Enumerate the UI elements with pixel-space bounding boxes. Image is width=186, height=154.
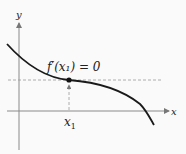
critical-point bbox=[66, 77, 71, 82]
x1-label: x1 bbox=[64, 115, 76, 131]
tangent-diagram: y x f′(x₁) = 0 x1 bbox=[0, 0, 186, 154]
derivative-annotation: f′(x₁) = 0 bbox=[46, 60, 101, 74]
y-axis-label: y bbox=[15, 9, 22, 20]
x-axis-label: x bbox=[171, 106, 177, 117]
function-curve bbox=[7, 44, 154, 125]
x1-label-subscript: 1 bbox=[71, 122, 76, 131]
